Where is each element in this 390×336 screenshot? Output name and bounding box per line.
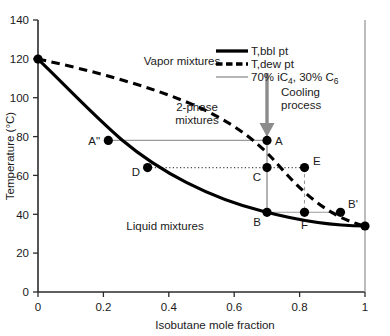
point-marker-a2 bbox=[104, 136, 113, 145]
point-marker-e bbox=[300, 163, 309, 172]
point-marker-a bbox=[262, 136, 271, 145]
point-label-bprime: B' bbox=[348, 198, 358, 210]
point-marker-d bbox=[143, 163, 152, 172]
x-tick-label: 0.8 bbox=[292, 301, 308, 313]
x-tick-label: 0.2 bbox=[95, 301, 111, 313]
point-label-e: E bbox=[313, 155, 321, 167]
point-label-b: B bbox=[253, 216, 261, 228]
y-tick-label: 40 bbox=[16, 209, 29, 221]
y-tick-label: 20 bbox=[16, 247, 29, 259]
bubble-point-curve bbox=[38, 59, 365, 226]
legend-label-mixture: 70% iC4, 30% C6 bbox=[251, 71, 339, 86]
annotation-process: process bbox=[281, 99, 322, 111]
point-label-d: D bbox=[132, 166, 140, 178]
x-tick-label: 0 bbox=[35, 301, 41, 313]
legend-mixture-part1: 70% iC bbox=[251, 71, 288, 83]
y-tick-label: 100 bbox=[10, 92, 29, 104]
annotation-cooling: Cooling bbox=[281, 86, 320, 98]
point-marker-origin bbox=[33, 55, 42, 64]
point-marker-pure bbox=[360, 221, 369, 230]
region-labels: Vapor mixtures 2-phase mixtures Liquid m… bbox=[126, 55, 220, 232]
point-label-c: C bbox=[253, 171, 261, 183]
y-tick-label: 60 bbox=[16, 170, 29, 182]
x-axis-tick-labels: 0 0.2 0.4 0.6 0.8 1 bbox=[35, 301, 368, 313]
region-label-2phase-line2: mixtures bbox=[175, 114, 219, 126]
point-label-f: F bbox=[301, 219, 308, 231]
legend-label-bbl: T,bbl pt bbox=[251, 45, 289, 57]
chart-legend: T,bbl pt T,dew pt 70% iC4, 30% C6 bbox=[216, 45, 339, 86]
x-tick-label: 0.6 bbox=[226, 301, 242, 313]
x-axis-title: Isobutane mole fraction bbox=[155, 319, 275, 331]
dew-point-curve bbox=[38, 59, 365, 226]
point-marker-bprime bbox=[336, 208, 345, 217]
legend-mixture-part2: , 30% C bbox=[293, 71, 334, 83]
y-tick-label: 0 bbox=[23, 286, 29, 298]
legend-mixture-sub2: 6 bbox=[334, 76, 339, 86]
y-tick-label: 140 bbox=[10, 14, 29, 26]
x-tick-label: 0.4 bbox=[161, 301, 178, 313]
txy-phase-diagram: 0 20 40 60 80 100 120 140 0 0.2 0.4 0.6 … bbox=[0, 0, 390, 336]
point-marker-f bbox=[300, 208, 309, 217]
y-tick-label: 80 bbox=[16, 131, 29, 143]
y-tick-label: 120 bbox=[10, 53, 29, 65]
point-label-a2: A" bbox=[88, 135, 100, 147]
cooling-process-annotation: Cooling process bbox=[281, 86, 322, 111]
region-label-2phase-line1: 2-phase bbox=[176, 101, 218, 113]
region-label-liquid: Liquid mixtures bbox=[126, 220, 204, 232]
region-label-vapor: Vapor mixtures bbox=[144, 55, 221, 67]
point-labels: A" D A C B E F B' bbox=[88, 135, 358, 232]
chart-figure: 0 20 40 60 80 100 120 140 0 0.2 0.4 0.6 … bbox=[0, 0, 390, 336]
x-tick-label: 1 bbox=[362, 301, 368, 313]
point-marker-c bbox=[262, 163, 271, 172]
point-label-a: A bbox=[275, 135, 283, 147]
y-axis-title: Temperature (°C) bbox=[4, 112, 16, 200]
point-marker-b bbox=[262, 208, 271, 217]
legend-label-dew: T,dew pt bbox=[251, 58, 295, 70]
